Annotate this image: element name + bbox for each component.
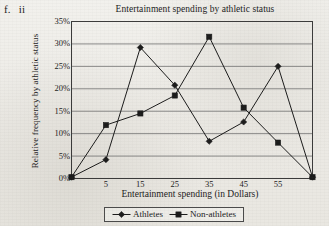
chart-legend: AthletesNon-athletes (104, 207, 244, 222)
legend-label: Athletes (133, 210, 163, 219)
legend-item-non-athletes[interactable]: Non-athletes (169, 210, 236, 219)
data-point-diamond (275, 63, 281, 69)
data-point-square (103, 123, 108, 128)
chart-figure: Entertainment spending by athletic statu… (0, 0, 329, 226)
data-point-square (176, 212, 181, 217)
legend-marker-diamond-icon (112, 210, 131, 219)
data-series (68, 34, 315, 180)
legend-item-athletes[interactable]: Athletes (112, 210, 163, 219)
data-point-square (138, 111, 143, 116)
data-point-diamond (206, 138, 212, 144)
legend-marker-square-icon (169, 210, 188, 219)
gridlines (72, 22, 313, 157)
data-point-square (275, 140, 280, 145)
data-point-diamond (241, 119, 247, 125)
legend-label: Non-athletes (190, 210, 236, 219)
data-point-square (310, 175, 315, 180)
data-point-square (241, 105, 246, 110)
data-point-diamond (103, 157, 109, 163)
x-axis-title: Entertainment spending (in Dollars) (60, 189, 320, 199)
series-athletes (68, 44, 315, 180)
data-point-square (207, 34, 212, 39)
data-point-diamond (118, 211, 124, 217)
data-point-square (69, 175, 74, 180)
data-point-square (172, 93, 177, 98)
